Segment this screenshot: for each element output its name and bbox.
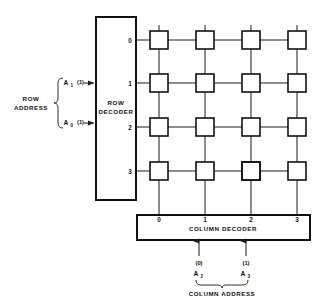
row-decoder-label-line2: DECODER — [98, 108, 133, 115]
row-decoder-label-line1: ROW — [108, 99, 125, 106]
memory-cell[interactable] — [150, 162, 168, 180]
row-decoder-output-3: 3 — [128, 168, 132, 175]
memory-cell[interactable] — [150, 74, 168, 92]
row-input-a0-value: (1) — [77, 119, 84, 125]
memory-cell[interactable] — [242, 74, 260, 92]
row-input-a1-name: A — [64, 79, 69, 86]
memory-cell[interactable] — [288, 162, 306, 180]
memory-cell[interactable] — [242, 118, 260, 136]
column-address-input-a2: (0) A 2 — [194, 260, 204, 279]
row-input-a0-subscript: 0 — [71, 123, 74, 128]
column-decoder[interactable]: COLUMN DECODER 0 1 2 3 — [137, 215, 310, 240]
row-decoder[interactable]: ROW DECODER 0 1 2 3 — [96, 17, 136, 200]
column-input-a2-name: A — [194, 270, 199, 277]
column-input-a2-value: (0) — [195, 260, 202, 266]
memory-cell[interactable] — [288, 31, 306, 49]
row-word-lines — [136, 40, 300, 171]
row-input-a1-subscript: 1 — [71, 83, 74, 88]
column-input-a3-subscript: 3 — [248, 274, 251, 279]
column-decoder-output-1: 1 — [203, 216, 207, 223]
row-input-a0-name: A — [64, 119, 69, 126]
memory-cell[interactable] — [242, 31, 260, 49]
row-address-caption: ROW ADDRESS — [14, 95, 48, 111]
memory-addressing-diagram: ROW ADDRESS A 1 (1) A 0 (1) ROW DECODER … — [0, 0, 334, 305]
memory-cell[interactable] — [196, 31, 214, 49]
column-decoder-output-2: 2 — [249, 216, 253, 223]
row-decoder-output-0: 0 — [128, 37, 132, 44]
column-address-brace — [196, 280, 248, 288]
memory-cell-array — [150, 31, 306, 180]
diagram-canvas: ROW ADDRESS A 1 (1) A 0 (1) ROW DECODER … — [0, 0, 334, 305]
memory-cell[interactable] — [196, 118, 214, 136]
row-input-a1-value: (1) — [77, 79, 84, 85]
column-input-a3-value: (1) — [242, 260, 249, 266]
row-decoder-output-1: 1 — [128, 80, 132, 87]
column-address-caption: COLUMN ADDRESS — [189, 290, 256, 297]
column-decoder-label: COLUMN DECODER — [189, 225, 257, 232]
column-decoder-output-3: 3 — [295, 216, 299, 223]
column-bit-lines — [159, 25, 297, 215]
column-address-input-a3: (1) A 3 — [241, 260, 251, 279]
row-address-caption-line1: ROW — [23, 95, 40, 102]
memory-cell[interactable] — [196, 74, 214, 92]
column-address-wires — [199, 241, 246, 256]
memory-cell[interactable] — [150, 31, 168, 49]
row-address-caption-line2: ADDRESS — [14, 104, 48, 111]
column-decoder-output-0: 0 — [157, 216, 161, 223]
memory-cell[interactable] — [150, 118, 168, 136]
memory-cell-selected[interactable] — [242, 162, 260, 180]
row-address-brace — [54, 78, 63, 128]
row-decoder-output-2: 2 — [128, 124, 132, 131]
memory-cell[interactable] — [288, 74, 306, 92]
column-address-caption-group: COLUMN ADDRESS — [189, 290, 256, 297]
column-input-a3-name: A — [241, 270, 246, 277]
row-address-input-a1: A 1 (1) — [64, 79, 94, 88]
memory-cell[interactable] — [196, 162, 214, 180]
column-input-a2-subscript: 2 — [201, 274, 204, 279]
memory-cell[interactable] — [288, 118, 306, 136]
row-address-input-a0: A 0 (1) — [64, 119, 94, 128]
